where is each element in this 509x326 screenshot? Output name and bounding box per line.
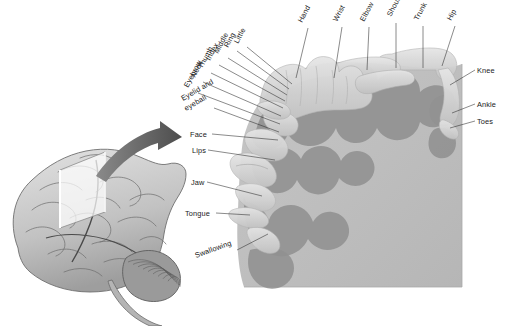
- label-trunk: Trunk: [412, 1, 429, 22]
- label-wrist: Wrist: [331, 3, 347, 22]
- label-swallowing: Swallowing: [194, 238, 233, 260]
- label-elbow: Elbow: [358, 0, 376, 23]
- label-knee: Knee: [477, 66, 495, 75]
- label-ankle: Ankle: [477, 100, 496, 109]
- label-hip: Hip: [445, 8, 458, 22]
- label-tongue: Tongue: [185, 209, 210, 218]
- label-shoulder: Shoulder: [385, 0, 407, 18]
- label-face: Face: [190, 130, 207, 139]
- label-lips: Lips: [192, 146, 206, 155]
- label-toes: Toes: [477, 117, 493, 126]
- figure-canvas: LittleRingMiddleIndexThumbNeckEyebrowEye…: [0, 0, 509, 326]
- homunculus-figure: LittleRingMiddleIndexThumbNeckEyebrowEye…: [0, 0, 509, 326]
- label-jaw: Jaw: [191, 178, 205, 187]
- label-hand: Hand: [296, 4, 312, 24]
